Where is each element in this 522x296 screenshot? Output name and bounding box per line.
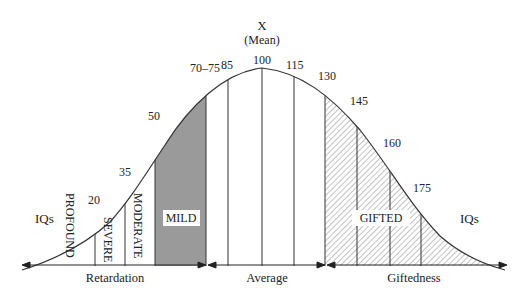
gifted-label: GIFTED <box>360 211 403 225</box>
iq-tick-100: 100 <box>253 53 271 67</box>
iq-tick-85: 85 <box>221 58 233 72</box>
profound-label: PROFOUND <box>63 193 77 258</box>
mean-symbol: X <box>257 18 267 33</box>
gifted-region <box>325 40 510 266</box>
mild-label: MILD <box>166 211 197 225</box>
left-iqs-label: IQs <box>35 211 54 226</box>
iq-tick-145: 145 <box>350 94 368 108</box>
iq-tick-115: 115 <box>286 58 304 72</box>
iq-tick-70-75: 70–75 <box>190 61 220 75</box>
retardation-label: Retardation <box>86 271 145 285</box>
bell-curve-svg: X (Mean) 20 35 50 70–75 85 100 115 130 1… <box>0 0 522 296</box>
moderate-label: MODERATE <box>131 193 145 258</box>
iq-tick-130: 130 <box>318 69 336 83</box>
right-iqs-label: IQs <box>460 211 479 226</box>
average-label: Average <box>246 271 288 285</box>
iq-tick-175: 175 <box>413 181 431 195</box>
iq-tick-50: 50 <box>148 109 160 123</box>
iq-tick-35: 35 <box>119 165 131 179</box>
iq-tick-20: 20 <box>88 193 100 207</box>
giftedness-label: Giftedness <box>387 271 441 285</box>
iq-distribution-diagram: X (Mean) 20 35 50 70–75 85 100 115 130 1… <box>0 0 522 296</box>
severe-label: SEVERE <box>101 217 115 262</box>
mean-label: (Mean) <box>244 33 279 47</box>
iq-tick-160: 160 <box>383 136 401 150</box>
